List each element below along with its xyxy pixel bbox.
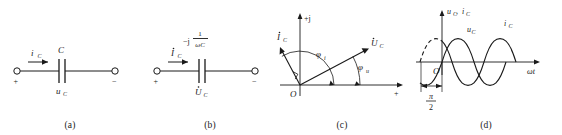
phasor-voltage-arrow-icon bbox=[362, 48, 369, 54]
current-arrow-head-icon bbox=[42, 59, 48, 64]
panel-c-phasor-current-label: I bbox=[276, 32, 281, 42]
panel-d-curve-voltage-sub: C bbox=[472, 29, 477, 35]
panel-c-caption: (c) bbox=[272, 120, 412, 130]
axis-y-arrow-icon bbox=[440, 10, 445, 16]
terminal-left-icon bbox=[14, 68, 20, 74]
panel-d-curve-current-sub: C bbox=[509, 23, 514, 29]
angle-arc-voltage-tick-icon bbox=[355, 81, 360, 86]
panel-c-angle-current-sub: i bbox=[324, 55, 326, 61]
phasor-current-arrow-icon bbox=[280, 47, 285, 54]
panel-a-current-label: i bbox=[31, 48, 34, 58]
panel-d-phase-shift-numerator: π bbox=[429, 92, 434, 101]
panel-b-caption: (b) bbox=[140, 120, 280, 130]
figure-capacitor-ac-circuit: i C C u C + − (a) I C −j 1 bbox=[0, 0, 562, 135]
panel-d-curve-current-label: i bbox=[504, 19, 506, 28]
terminal-right-icon bbox=[112, 68, 118, 74]
current-arrow-head-icon bbox=[182, 59, 188, 64]
panel-c-origin-label: O bbox=[290, 89, 297, 99]
panel-d-y-axis-separator: , bbox=[456, 7, 458, 16]
panel-d-caption: (d) bbox=[410, 120, 562, 130]
phasor-current-line bbox=[282, 51, 300, 85]
panel-b-current-sub: C bbox=[178, 53, 183, 59]
curve-current-dashed-segment bbox=[420, 39, 442, 62]
panel-c-phasor-voltage-sub: C bbox=[380, 43, 385, 49]
panel-c-phasor-diagram: + +j O U C I C φ i bbox=[272, 0, 412, 135]
panel-b-voltage-sub: C bbox=[204, 92, 209, 98]
panel-a-caption: (a) bbox=[0, 120, 140, 130]
axis-imag-arrow-icon bbox=[298, 13, 303, 19]
panel-d-y-axis-label: u bbox=[447, 7, 451, 16]
angle-arc-current bbox=[282, 51, 334, 85]
panel-b-current-label: I bbox=[170, 48, 175, 58]
panel-a-svg: i C C u C + − bbox=[0, 0, 140, 110]
panel-c-svg: + +j O U C I C φ i bbox=[272, 0, 412, 110]
panel-a-voltage-sub: C bbox=[63, 91, 68, 97]
terminal-left-icon bbox=[154, 68, 160, 74]
panel-b-impedance-numerator: 1 bbox=[198, 30, 202, 38]
panel-c-axis-imag-label: +j bbox=[304, 14, 311, 23]
axis-real-arrow-icon bbox=[397, 83, 403, 88]
panel-b-terminal-plus: + bbox=[154, 77, 159, 86]
panel-d-y-axis-label2-sub: C bbox=[466, 11, 471, 17]
panel-a-component-label: C bbox=[58, 45, 65, 55]
panel-d-x-axis-label: ωt bbox=[527, 67, 536, 76]
panel-c-phasor-current-sub: C bbox=[283, 37, 288, 43]
panel-d-waveform-chart: ωt u C , i C O i C u C bbox=[410, 0, 562, 135]
terminal-right-icon bbox=[252, 68, 258, 74]
panel-b-impedance-prefix: −j bbox=[183, 37, 190, 46]
dimension-arrow-right-icon bbox=[436, 84, 442, 88]
panel-b-terminal-minus: − bbox=[252, 77, 257, 86]
panel-c-angle-voltage-sub: u bbox=[366, 68, 369, 74]
panel-b-svg: I C −j 1 ωC U C + − bbox=[140, 0, 280, 110]
panel-b-phasor-domain-circuit: I C −j 1 ωC U C + − (b) bbox=[140, 0, 280, 135]
phasor-voltage-line bbox=[300, 50, 366, 85]
panel-b-voltage-label: U bbox=[195, 87, 202, 97]
axis-x-arrow-icon bbox=[534, 60, 540, 65]
panel-a-current-sub: C bbox=[38, 53, 43, 59]
panel-a-time-domain-circuit: i C C u C + − (a) bbox=[0, 0, 140, 135]
panel-c-angle-current-label: φ bbox=[316, 49, 321, 59]
panel-d-curve-voltage-label: u bbox=[467, 25, 471, 34]
panel-c-angle-voltage-label: φ bbox=[358, 62, 363, 72]
panel-c-axis-real-label: + bbox=[394, 89, 399, 98]
panel-c-phasor-voltage-label: U bbox=[371, 38, 378, 48]
panel-d-y-axis-label2: i bbox=[462, 7, 464, 16]
panel-a-voltage-label: u bbox=[56, 86, 61, 96]
panel-b-impedance-denominator: ωC bbox=[195, 41, 205, 49]
panel-a-terminal-plus: + bbox=[14, 77, 19, 86]
panel-d-phase-shift-denominator: 2 bbox=[429, 103, 433, 112]
angle-arc-current-tick-icon bbox=[329, 80, 334, 85]
panel-d-svg: ωt u C , i C O i C u C bbox=[410, 0, 562, 112]
panel-a-terminal-minus: − bbox=[112, 77, 117, 86]
